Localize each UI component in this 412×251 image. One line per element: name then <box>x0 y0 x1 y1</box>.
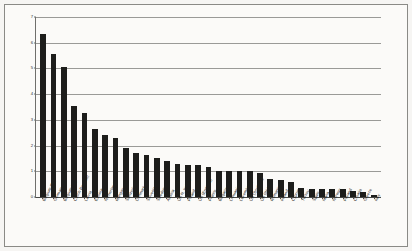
bar-slot <box>255 17 265 197</box>
x-label-slot: Slovenia <box>141 199 151 251</box>
x-label-slot: Norway <box>327 199 337 251</box>
x-axis-labels: Belgium (Fr.)GermanyBelgium (Fl.)Czech R… <box>35 199 381 251</box>
bar <box>40 34 46 197</box>
x-label-slot: Italy <box>369 199 379 251</box>
bar-slot <box>110 17 120 197</box>
bar-slot <box>348 17 358 197</box>
x-label-slot: Turkey <box>296 199 306 251</box>
bar-slot <box>296 17 306 197</box>
bar-slot <box>90 17 100 197</box>
y-axis-tick-label: 0 <box>31 195 33 199</box>
x-label-slot: Spain <box>306 199 316 251</box>
bar-slot <box>245 17 255 197</box>
x-label-slot: France <box>203 199 213 251</box>
x-label-slot: Sweden <box>151 199 161 251</box>
bar-slot <box>317 17 327 197</box>
x-label-slot: Lithuania <box>223 199 233 251</box>
x-label-slot: Poland <box>182 199 192 251</box>
x-label-slot: Finland <box>337 199 347 251</box>
x-label-slot: UK (Scotland) <box>244 199 254 251</box>
x-label-slot: Belgium (Fl.) <box>58 199 68 251</box>
bar-slot <box>59 17 69 197</box>
bar-slot <box>152 17 162 197</box>
bar-series <box>36 17 381 197</box>
bar <box>92 129 98 197</box>
bar-slot <box>79 17 89 197</box>
y-axis-tick-label: 1 <box>31 169 33 173</box>
bar-slot <box>69 17 79 197</box>
bar-slot <box>224 17 234 197</box>
x-label-slot: UK (England) <box>192 199 202 251</box>
x-label-slot: Bulgaria <box>213 199 223 251</box>
x-label-slot: Cyprus <box>286 199 296 251</box>
x-label-slot: Greece <box>358 199 368 251</box>
bar <box>61 67 67 197</box>
bar-slot <box>234 17 244 197</box>
x-label-slot: Estonia <box>89 199 99 251</box>
bar-slot <box>276 17 286 197</box>
bar-slot <box>265 17 275 197</box>
x-label-slot: Germany <box>47 199 57 251</box>
bar-slot <box>307 17 317 197</box>
bar-slot <box>121 17 131 197</box>
y-axis-tick-label: 2 <box>31 143 33 147</box>
bar-slot <box>193 17 203 197</box>
x-label-slot: UK (Wales) <box>255 199 265 251</box>
y-axis-tick-label: 7 <box>31 15 33 19</box>
bar-slot <box>358 17 368 197</box>
bar-slot <box>48 17 58 197</box>
x-label-slot: Netherlands <box>99 199 109 251</box>
bar-slot <box>327 17 337 197</box>
bar-slot <box>172 17 182 197</box>
bar-slot <box>131 17 141 197</box>
x-label-slot: Luxembourg <box>234 199 244 251</box>
x-label-slot: Latvia <box>78 199 88 251</box>
x-label-slot: UK N. Ireland <box>172 199 182 251</box>
bar-slot <box>141 17 151 197</box>
bar <box>102 135 108 197</box>
bar <box>51 54 57 197</box>
bar-slot <box>338 17 348 197</box>
x-label-slot: Romania <box>265 199 275 251</box>
plot-area-wrapper: 01234567 <box>35 17 381 198</box>
bar-slot <box>214 17 224 197</box>
chart-paper-background: 01234567 Belgium (Fr.)GermanyBelgium (Fl… <box>4 4 408 247</box>
y-axis-tick-label: 6 <box>31 41 33 45</box>
bar-slot <box>286 17 296 197</box>
y-axis-tick-label: 5 <box>31 66 33 70</box>
x-label-slot: Croatia <box>348 199 358 251</box>
bar-slot <box>38 17 48 197</box>
x-label-slot: Hungary <box>110 199 120 251</box>
y-axis-tick-label: 4 <box>31 92 33 96</box>
bar-slot <box>100 17 110 197</box>
x-label-slot: Malta <box>317 199 327 251</box>
bar-slot <box>183 17 193 197</box>
chart-figure: 01234567 Belgium (Fr.)GermanyBelgium (Fl… <box>0 0 412 251</box>
x-axis-tick-label: Italy <box>374 193 381 202</box>
bar-slot <box>369 17 379 197</box>
y-axis-tick-label: 3 <box>31 118 33 122</box>
x-label-slot: Austria <box>161 199 171 251</box>
bar-slot <box>162 17 172 197</box>
x-label-slot: Belgium (Fr.) <box>37 199 47 251</box>
x-label-slot: Denmark <box>130 199 140 251</box>
bar-slot <box>203 17 213 197</box>
x-label-slot: Czech Republic <box>68 199 78 251</box>
plot-area: 01234567 <box>35 17 381 198</box>
x-label-slot: Switzerland <box>120 199 130 251</box>
x-label-slot: Ireland <box>275 199 285 251</box>
